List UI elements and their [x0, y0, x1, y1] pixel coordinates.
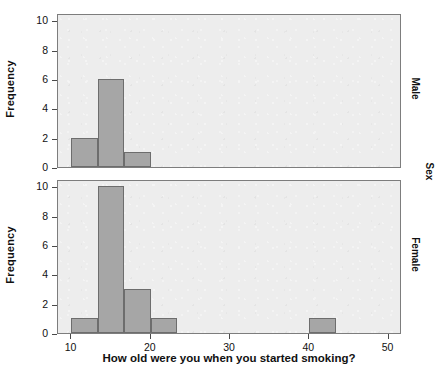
y-tick-label: 4 [42, 102, 48, 114]
y-tick-mark [52, 51, 57, 52]
panel-female [57, 180, 401, 334]
y-tick-label: 2 [42, 132, 48, 144]
y-tick-mark [52, 21, 57, 22]
y-axis-label-male: Frequency [4, 59, 16, 119]
histogram-bar [71, 138, 97, 167]
x-tick-mark [70, 334, 71, 339]
y-tick-mark [52, 109, 57, 110]
y-tick-label: 6 [42, 73, 48, 85]
y-tick-label: 10 [36, 180, 48, 192]
x-axis-label: How old were you when you started smokin… [57, 352, 401, 364]
histogram-bar [98, 79, 124, 167]
y-tick-mark [52, 139, 57, 140]
histogram-bar [124, 152, 150, 167]
histogram-figure: 0246810 Frequency Male Sex 0246810 Frequ… [0, 0, 442, 379]
histogram-bar [151, 318, 177, 333]
y-tick-mark [52, 246, 57, 247]
y-tick-label: 0 [42, 161, 48, 173]
histogram-bar [98, 186, 124, 333]
y-tick-label: 6 [42, 239, 48, 251]
histogram-bar [71, 318, 97, 333]
y-tick-label: 2 [42, 298, 48, 310]
histogram-bar [124, 289, 150, 333]
x-tick-mark [150, 334, 151, 339]
outer-strip-label-sex: Sex [424, 152, 435, 192]
y-tick-label: 4 [42, 268, 48, 280]
histogram-bar [309, 318, 335, 333]
y-tick-mark [52, 334, 57, 335]
y-tick-label: 0 [42, 327, 48, 339]
strip-label-female: Female [410, 225, 421, 285]
y-tick-mark [52, 187, 57, 188]
y-tick-mark [52, 80, 57, 81]
x-tick-mark [229, 334, 230, 339]
y-tick-label: 10 [36, 14, 48, 26]
y-tick-mark [52, 168, 57, 169]
y-tick-mark [52, 305, 57, 306]
bars-female [58, 181, 400, 333]
strip-label-male: Male [410, 59, 421, 119]
y-tick-mark [52, 217, 57, 218]
panel-male [57, 14, 401, 168]
y-axis-label-female: Frequency [4, 225, 16, 285]
x-tick-mark [388, 334, 389, 339]
x-tick-mark [308, 334, 309, 339]
y-tick-label: 8 [42, 44, 48, 56]
bars-male [58, 15, 400, 167]
y-tick-mark [52, 275, 57, 276]
y-tick-label: 8 [42, 210, 48, 222]
